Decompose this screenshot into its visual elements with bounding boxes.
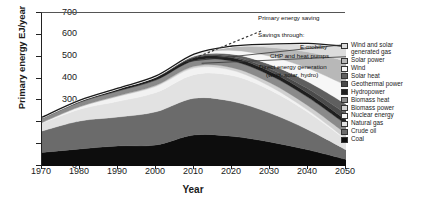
legend-item-label: Coal	[351, 135, 364, 142]
legend-item-biomass-heat[interactable]: Biomass heat	[341, 96, 426, 104]
legend-item-label: Solar power	[351, 56, 385, 63]
legend-item-natural-gas[interactable]: Natural gas	[341, 119, 426, 127]
legend-swatch-icon	[341, 66, 348, 72]
legend-item-label: Wind and solargenerated gas	[351, 41, 393, 56]
legend-item-biomass-power[interactable]: Biomass power	[341, 104, 426, 112]
legend-item-hydropower[interactable]: Hydropower	[341, 88, 426, 96]
x-axis-label: Year	[41, 184, 345, 195]
legend-swatch-icon	[341, 73, 348, 79]
chart-figure: Primary energy EJ/year 01002003004005006…	[0, 0, 426, 202]
annotation-direct-energy-sources: (wind, solar, hydro)	[266, 71, 318, 79]
legend-item-label: Natural gas	[351, 119, 383, 126]
annotation-primary-energy-saving: Primary energy saving	[258, 14, 320, 22]
legend-swatch-icon	[341, 129, 348, 135]
legend-item-coal[interactable]: Coal	[341, 135, 426, 143]
legend-item-label: Hydropower	[351, 88, 385, 95]
legend-swatch-icon	[341, 81, 348, 87]
legend-item-label: Biomass power	[351, 104, 394, 111]
legend-item-wind[interactable]: Wind	[341, 64, 426, 72]
legend-swatch-icon	[341, 105, 348, 111]
legend-swatch-icon	[341, 89, 348, 95]
annotation-savings-through: Savings through:	[258, 31, 304, 39]
chart-legend: Wind and solargenerated gasSolar powerWi…	[341, 41, 426, 143]
legend-item-wind-and-solar[interactable]: Wind and solargenerated gas	[341, 41, 426, 56]
legend-swatch-icon	[341, 43, 348, 49]
legend-swatch-icon	[341, 113, 348, 119]
legend-item-solar-power[interactable]: Solar power	[341, 56, 426, 64]
annotation-chp-heat-pumps: CHP and heat pumps	[270, 52, 329, 60]
legend-item-label: Geothermal power	[351, 80, 403, 87]
legend-item-label: Wind	[351, 64, 365, 71]
legend-item-label: Biomass heat	[351, 96, 389, 103]
legend-swatch-icon	[341, 58, 348, 64]
legend-item-label: Nuclear energy	[351, 111, 394, 118]
legend-item-crude-oil[interactable]: Crude oil	[341, 127, 426, 135]
annotation-direct-energy-generation: Direct energy generation	[259, 63, 327, 71]
legend-item-geothermal-power[interactable]: Geothermal power	[341, 80, 426, 88]
y-axis-label: Primary energy EJ/year	[16, 0, 27, 133]
legend-item-solar-heat[interactable]: Solar heat	[341, 72, 426, 80]
legend-item-label: Solar heat	[351, 72, 380, 79]
legend-swatch-icon	[341, 137, 348, 143]
legend-swatch-icon	[341, 97, 348, 103]
legend-item-label: Crude oil	[351, 127, 376, 134]
annotation-e-mobility: E-mobility	[300, 43, 327, 51]
legend-item-nuclear-energy[interactable]: Nuclear energy	[341, 111, 426, 119]
legend-swatch-icon	[341, 121, 348, 127]
